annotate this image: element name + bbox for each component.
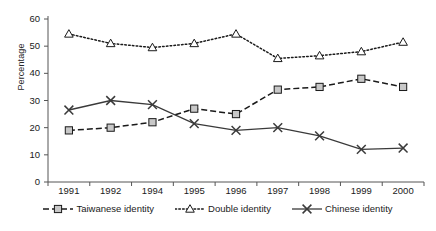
marker-square bbox=[316, 83, 323, 90]
marker-square bbox=[107, 124, 114, 131]
legend-item-taiwanese-identity[interactable]: Taiwanese identity bbox=[43, 203, 154, 215]
marker-square bbox=[232, 110, 239, 117]
marker-square bbox=[65, 127, 72, 134]
legend-swatch-x-icon bbox=[292, 203, 322, 215]
series-double-identity bbox=[65, 30, 408, 62]
legend-swatch-triangle-icon bbox=[175, 203, 205, 215]
legend-label: Chinese identity bbox=[325, 204, 393, 214]
chart-legend: Taiwanese identityDouble identityChinese… bbox=[0, 203, 436, 215]
marker-square bbox=[149, 119, 156, 126]
legend-label: Taiwanese identity bbox=[76, 204, 154, 214]
series-chinese-identity bbox=[64, 96, 407, 154]
legend-swatch-square-icon bbox=[43, 203, 73, 215]
legend-label: Double identity bbox=[208, 204, 271, 214]
line-chart: Percentage 6050403020100 199119921994199… bbox=[0, 0, 436, 231]
legend-item-double-identity[interactable]: Double identity bbox=[175, 203, 271, 215]
marker-square bbox=[55, 205, 62, 212]
marker-square bbox=[358, 75, 365, 82]
series-line bbox=[69, 101, 403, 150]
marker-square bbox=[274, 86, 281, 93]
series-line bbox=[69, 79, 403, 131]
marker-square bbox=[400, 83, 407, 90]
marker-triangle bbox=[232, 30, 241, 38]
plot-area bbox=[0, 0, 436, 231]
legend-item-chinese-identity[interactable]: Chinese identity bbox=[292, 203, 393, 215]
marker-triangle bbox=[399, 38, 408, 46]
marker-square bbox=[191, 105, 198, 112]
series-taiwanese-identity bbox=[65, 75, 406, 134]
marker-triangle bbox=[65, 30, 74, 38]
